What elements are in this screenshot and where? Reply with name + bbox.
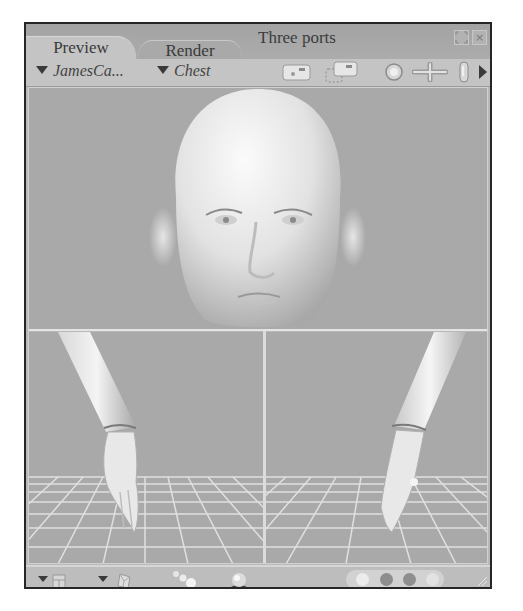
bottom-toolbar	[26, 565, 490, 589]
resize-grip-icon[interactable]	[476, 575, 488, 587]
ball-render-icon[interactable]	[226, 569, 252, 589]
main-viewport[interactable]	[28, 87, 488, 330]
figure-dropdown-label: JamesCa...	[53, 62, 124, 79]
toolbar: JamesCa... Chest	[26, 59, 490, 87]
full-texture-tracking-button[interactable]	[426, 573, 439, 586]
tracking-mode-group	[346, 570, 444, 589]
tab-render[interactable]: Render	[138, 40, 242, 61]
body-part-dropdown[interactable]: Chest	[157, 62, 210, 80]
dropdown-triangle-icon	[36, 66, 48, 74]
viewport-divider-horizontal[interactable]	[28, 329, 488, 331]
tab-preview[interactable]: Preview	[26, 36, 136, 61]
dropdown-triangle-icon	[157, 66, 169, 74]
head-render	[28, 87, 488, 330]
right-viewport[interactable]	[266, 332, 488, 564]
window-title: Three ports	[258, 28, 336, 48]
lights-icon[interactable]	[171, 569, 201, 589]
close-icon[interactable]: ×	[472, 30, 487, 45]
three-ports-window: Render Preview Three ports × JamesCa... …	[24, 22, 492, 589]
body-part-dropdown-label: Chest	[174, 62, 210, 79]
figure-dropdown[interactable]: JamesCa...	[36, 62, 124, 80]
fast-tracking-button[interactable]	[380, 573, 393, 586]
face-camera-icon[interactable]	[383, 62, 405, 82]
right-hand-render	[266, 332, 488, 564]
box-tracking-button[interactable]	[356, 573, 369, 586]
maximize-icon[interactable]	[454, 30, 469, 45]
left-hand-render	[28, 332, 263, 564]
document-menu-icon[interactable]	[38, 574, 68, 589]
tab-strip: Render Preview Three ports ×	[26, 24, 490, 59]
move-cross-icon[interactable]	[412, 62, 448, 82]
full-tracking-button[interactable]	[403, 573, 416, 586]
display-style-icon[interactable]	[98, 572, 138, 589]
more-arrow-icon[interactable]	[479, 65, 487, 79]
camera-multi-icon[interactable]	[324, 60, 360, 84]
camera-icon[interactable]	[281, 62, 313, 82]
left-viewport[interactable]	[28, 332, 263, 564]
hand-camera-icon[interactable]	[458, 60, 470, 84]
